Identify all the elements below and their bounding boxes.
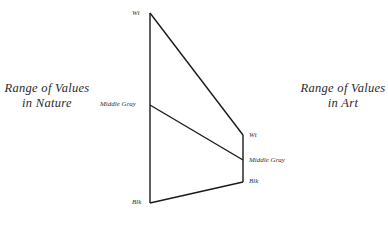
nature-middle-gray-label: Middle Gray <box>100 100 136 108</box>
art-middle-gray-label: Middle Gray <box>249 156 285 164</box>
art-range-title: Range of Values in Art <box>298 81 388 111</box>
art-title-line1: Range of Values <box>298 81 388 96</box>
nature-title-line2: in Nature <box>2 96 92 111</box>
white-mapping-line <box>150 13 243 135</box>
art-title-line2: in Art <box>298 96 388 111</box>
art-white-label: Wt <box>249 131 257 139</box>
nature-black-label: Blk <box>132 198 141 206</box>
middle-gray-mapping-line <box>150 105 243 160</box>
value-range-diagram <box>0 0 388 226</box>
nature-range-title: Range of Values in Nature <box>2 81 92 111</box>
nature-white-label: Wt <box>132 9 140 17</box>
black-mapping-line <box>150 182 243 203</box>
nature-title-line1: Range of Values <box>2 81 92 96</box>
art-black-label: Blk <box>249 177 258 185</box>
